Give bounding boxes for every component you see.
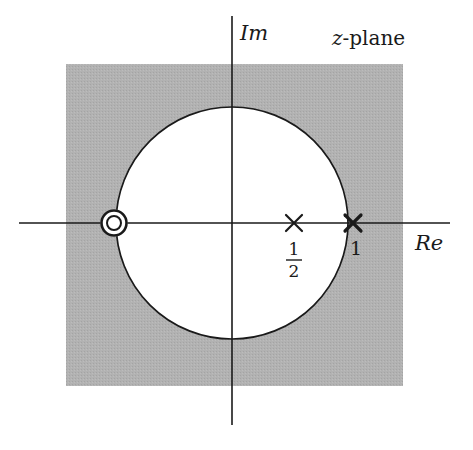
pole-half-numerator: 1: [289, 239, 300, 259]
zplane-figure: 1 2 1 Im Re z-plane: [0, 0, 473, 450]
plane-label-suffix: -plane: [343, 26, 406, 50]
plane-label: z-plane: [331, 26, 405, 50]
real-axis-label: Re: [414, 231, 443, 255]
pole-one-label: 1: [350, 237, 362, 259]
plane-label-variable: z: [331, 26, 343, 50]
pole-half-denominator: 2: [289, 261, 300, 281]
zero-marker-minus-one: [101, 210, 128, 237]
pole-zero-plot: 1 2 1 Im Re z-plane: [0, 0, 473, 450]
imaginary-axis-label: Im: [239, 21, 268, 45]
